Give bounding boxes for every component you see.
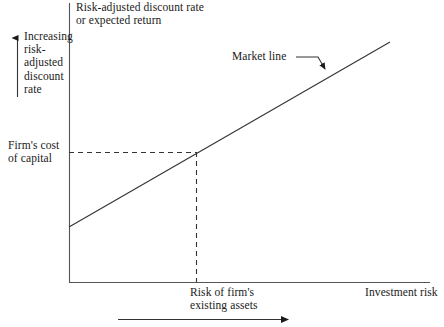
y-axis-title: Risk-adjusted discount rate or expected …: [76, 1, 204, 27]
x-axis-title: Investment risk: [365, 286, 438, 299]
market-line: [69, 42, 390, 227]
leader-arrow-icon: [296, 57, 325, 69]
x-tick-label-risk-existing-assets: Risk of firm's existing assets: [190, 286, 258, 312]
y-tick-label-firms-cost-of-capital: Firm's cost of capital: [8, 139, 59, 165]
market-line-annotation-label: Market line: [232, 50, 286, 63]
y-axis-direction-label: Increasing risk- adjusted discount rate: [24, 30, 70, 96]
figure-canvas: Risk-adjusted discount rate or expected …: [0, 0, 444, 327]
